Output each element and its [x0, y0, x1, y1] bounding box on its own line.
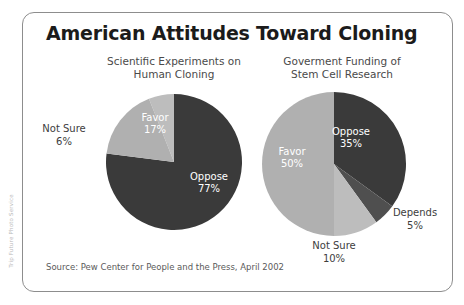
chart-subtitle-right-line1: Goverment Funding of [283, 55, 400, 67]
pie-right-label-notsure: Not Sure 10% [300, 240, 368, 265]
source-note: Source: Pew Center for People and the Pr… [46, 262, 284, 272]
pie-left-svg [104, 92, 244, 232]
chart-subtitle-left: Scientific Experiments on Human Cloning [104, 55, 244, 81]
pie-right-label-depends-name: Depends [382, 207, 448, 220]
pie-right-label-notsure-name: Not Sure [300, 240, 368, 253]
pie-right-label-notsure-value: 10% [300, 253, 368, 266]
pie-right-slice-favor[interactable] [262, 92, 334, 236]
pie-chart-scientific-experiments [104, 92, 244, 232]
chart-subtitle-left-line2: Human Cloning [134, 68, 215, 80]
page-title: American Attitudes Toward Cloning [46, 22, 417, 44]
pie-right-label-depends: Depends 5% [382, 207, 448, 232]
chart-subtitle-left-line1: Scientific Experiments on [107, 55, 241, 67]
pie-left-label-notsure: Not Sure 6% [30, 123, 98, 148]
chart-subtitle-right: Goverment Funding of Stem Cell Research [272, 55, 412, 81]
chart-subtitle-right-line2: Stem Cell Research [291, 68, 393, 80]
pie-left-label-notsure-name: Not Sure [30, 123, 98, 136]
pie-right-label-depends-value: 5% [382, 220, 448, 233]
pie-left-label-notsure-value: 6% [30, 136, 98, 149]
photo-service-credit: Trip Future Photo Service [8, 191, 14, 271]
